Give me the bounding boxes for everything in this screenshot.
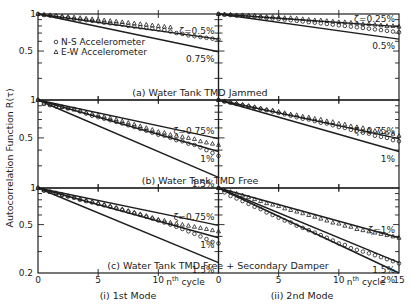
ew-data-point: [168, 133, 172, 137]
ytick-label: 1: [30, 9, 36, 19]
ew-data-point: [186, 223, 190, 227]
ew-data-point: [156, 24, 160, 28]
column-label: (i) 1st Mode: [100, 290, 157, 301]
legend: N-S AccelerometerE-W Accelerometer: [54, 37, 147, 57]
ns-data-point: [331, 23, 335, 27]
panel-row-label: (a) Water Tank TMD Jammed: [132, 87, 267, 98]
ew-data-point: [168, 25, 172, 29]
damping-label: 1%: [381, 154, 396, 164]
yaxis-label: Autocorrelation Function R(τ): [4, 88, 15, 227]
ew-data-point: [144, 22, 148, 26]
ew-data-point: [126, 20, 130, 24]
autocorrelation-figure: ζ=0.5%0.75%ζ=0.25%0.5%ζ=0.75%1%1.5%ζ=0.7…: [0, 0, 412, 305]
legend-label: N-S Accelerometer: [61, 37, 145, 47]
xtick-label: 10: [153, 275, 165, 285]
ew-data-point: [343, 122, 347, 126]
ew-data-point: [210, 228, 214, 232]
ew-data-point: [355, 227, 359, 231]
panel-a-mode2: ζ=0.25%0.5%: [217, 12, 402, 51]
ew-data-point: [132, 210, 136, 214]
ew-data-point: [132, 21, 136, 25]
panel-b-mode2: ζ=0.75%1%: [217, 98, 402, 164]
ew-data-point: [198, 226, 202, 230]
ew-data-point: [138, 22, 142, 26]
ew-data-point: [319, 117, 323, 121]
ew-data-point: [331, 220, 335, 224]
ns-data-point: [391, 30, 395, 34]
panel-row-label: (c) Water Tank TMD Free + Secondary Damp…: [107, 260, 328, 271]
ew-data-point: [120, 207, 124, 211]
xtick-label: 15: [393, 275, 404, 285]
ew-data-point: [126, 209, 130, 213]
ew-data-point: [307, 115, 311, 119]
ytick-label: 0.5: [19, 46, 33, 56]
damping-reference-line: [38, 100, 219, 177]
ns-data-point: [355, 25, 359, 29]
ew-data-point: [150, 215, 154, 219]
ew-data-point: [337, 121, 341, 125]
ew-data-point: [144, 214, 148, 218]
ew-data-point: [162, 218, 166, 222]
ytick-label: 1: [30, 95, 36, 105]
ew-data-point: [343, 223, 347, 227]
xaxis-label: nth cycle: [347, 275, 386, 287]
ns-data-point: [349, 246, 353, 250]
ew-data-point: [331, 120, 335, 124]
ns-data-point: [367, 27, 371, 31]
ew-data-point: [295, 113, 299, 117]
xtick-label: 0: [35, 275, 41, 285]
damping-label: 1%: [200, 240, 215, 250]
ytick-label: 0.2: [19, 268, 33, 278]
damping-label: ζ=0.75%: [173, 126, 214, 136]
xtick-label: 5: [276, 275, 282, 285]
ew-data-point: [108, 204, 112, 208]
panel-row-label: (b) Water Tank TMD Free: [142, 175, 259, 186]
legend-triangle-icon: [54, 50, 58, 54]
ns-data-point: [385, 29, 389, 33]
xtick-label: 5: [95, 275, 101, 285]
damping-reference-line: [38, 188, 219, 263]
ns-data-point: [229, 194, 233, 198]
xtick-label: 10: [333, 275, 345, 285]
ns-data-point: [337, 23, 341, 27]
ns-data-point: [355, 248, 359, 252]
ns-data-point: [373, 253, 377, 257]
ns-data-point: [349, 25, 353, 29]
column-label: (ii) 2nd Mode: [271, 290, 334, 301]
xaxis-label: nth cycle: [166, 275, 205, 287]
ns-data-point: [343, 24, 347, 28]
damping-label: ζ=0.75%: [173, 212, 214, 222]
ew-data-point: [204, 227, 208, 231]
ew-data-point: [138, 212, 142, 216]
ns-data-point: [379, 28, 383, 32]
ns-data-point: [373, 28, 377, 32]
ew-data-point: [114, 205, 118, 209]
ytick-label: 0.5: [19, 220, 33, 230]
ns-data-point: [391, 138, 395, 142]
damping-label: 0.75%: [186, 54, 215, 64]
ns-data-point: [361, 250, 365, 254]
ew-data-point: [168, 220, 172, 224]
ew-data-point: [180, 222, 184, 226]
ew-data-point: [349, 124, 353, 128]
ew-data-point: [192, 225, 196, 229]
xtick-label: 0: [216, 275, 222, 285]
ns-data-point: [361, 26, 365, 30]
legend-circle-icon: [54, 40, 58, 44]
ew-data-point: [150, 23, 154, 27]
damping-label: ζ=0.5%: [179, 26, 215, 36]
ew-data-point: [162, 24, 166, 28]
ytick-label: 1: [30, 183, 36, 193]
ns-data-point: [205, 148, 209, 152]
legend-label: E-W Accelerometer: [61, 47, 147, 57]
ew-data-point: [198, 139, 202, 143]
ew-data-point: [186, 136, 190, 140]
ytick-label: 0.5: [19, 133, 33, 143]
ew-data-point: [210, 141, 214, 145]
damping-label: 0.5%: [372, 41, 395, 51]
ns-data-point: [199, 235, 203, 239]
ew-data-point: [204, 140, 208, 144]
ns-data-point: [193, 232, 197, 236]
ew-data-point: [192, 137, 196, 141]
ns-data-point: [343, 243, 347, 247]
